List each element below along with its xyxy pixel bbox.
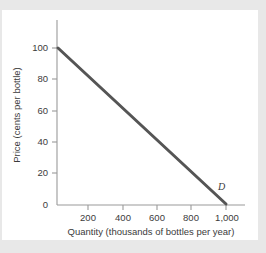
y-tick-label-0: 0: [43, 199, 48, 210]
x-tick-label-600: 600: [149, 212, 165, 223]
y-tick-label-100: 100: [32, 42, 48, 53]
y-axis-ticks: [52, 48, 57, 173]
demand-curve-label: D: [217, 181, 226, 192]
y-tick-label-40: 40: [37, 136, 48, 147]
x-tick-label-1000: 1,000: [215, 212, 239, 223]
y-tick-label-20: 20: [37, 167, 48, 178]
page-root: · ·: [0, 0, 266, 253]
top-cut-strip: · ·: [0, 0, 266, 10]
x-axis-ticks: [88, 205, 226, 210]
demand-curve-line: [58, 48, 226, 204]
y-axis-title: Price (cents per bottle): [11, 67, 22, 163]
y-tick-label-80: 80: [37, 73, 48, 84]
x-tick-label-800: 800: [183, 212, 199, 223]
x-axis-title: Quantity (thousands of bottles per year): [68, 226, 235, 237]
demand-curve-chart: 100 80 60 40 20 0 200 400 600 800 1,000 …: [2, 10, 258, 240]
chart-svg: 100 80 60 40 20 0 200 400 600 800 1,000 …: [2, 10, 258, 240]
y-tick-label-60: 60: [37, 105, 48, 116]
x-tick-label-200: 200: [80, 212, 96, 223]
x-tick-label-400: 400: [115, 212, 131, 223]
top-cut-text: · ·: [55, 0, 66, 3]
figure-card: 100 80 60 40 20 0 200 400 600 800 1,000 …: [2, 10, 258, 240]
